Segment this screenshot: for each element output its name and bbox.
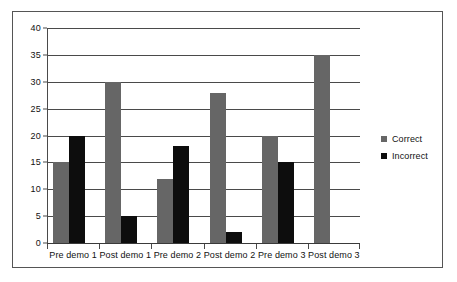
bar-incorrect-1 <box>69 136 85 244</box>
y-tick-label: 15 <box>31 157 41 167</box>
bar-correct-4 <box>210 93 226 244</box>
x-tick-mark <box>359 244 360 249</box>
legend-label: Correct <box>392 134 422 144</box>
x-tick-mark <box>47 244 48 249</box>
bar-group <box>308 28 360 243</box>
legend-label: Incorrect <box>392 151 428 161</box>
bar-group <box>47 28 99 243</box>
x-tick-label: Pre demo 1 <box>49 250 97 260</box>
bar-incorrect-4 <box>226 232 242 243</box>
y-tick-label: 35 <box>31 50 41 60</box>
x-tick-label: Post demo 3 <box>308 250 360 260</box>
x-tick-mark <box>99 244 100 249</box>
legend-item-correct: Correct <box>381 130 441 147</box>
bar-incorrect-2 <box>121 216 137 243</box>
bar-group <box>256 28 308 243</box>
bar-correct-2 <box>105 82 121 243</box>
bar-correct-6 <box>314 55 330 243</box>
bars-layer <box>47 28 360 243</box>
x-axis-ticks <box>47 244 360 249</box>
chart-frame: 0510152025303540 Pre demo 1Post demo 1Pr… <box>12 11 443 268</box>
bar-group <box>151 28 203 243</box>
y-tick-label: 10 <box>31 184 41 194</box>
x-axis-labels: Pre demo 1Post demo 1Pre demo 2Post demo… <box>47 250 360 264</box>
x-tick-mark <box>256 244 257 249</box>
bar-correct-5 <box>262 136 278 244</box>
bar-incorrect-5 <box>278 162 294 243</box>
y-tick-label: 25 <box>31 104 41 114</box>
gray-square-marker-icon <box>381 136 387 142</box>
y-tick-label: 0 <box>36 238 41 248</box>
y-tick-label: 30 <box>31 77 41 87</box>
x-tick-mark <box>308 244 309 249</box>
y-tick-label: 40 <box>31 23 41 33</box>
x-tick-label: Post demo 2 <box>204 250 256 260</box>
y-tick-label: 5 <box>36 211 41 221</box>
bar-group <box>99 28 151 243</box>
plot-area: 0510152025303540 <box>47 28 360 243</box>
chart-legend: CorrectIncorrect <box>381 130 441 164</box>
bar-correct-3 <box>157 179 173 244</box>
bar-incorrect-3 <box>173 146 189 243</box>
legend-item-incorrect: Incorrect <box>381 147 441 164</box>
y-tick-label: 20 <box>31 131 41 141</box>
x-tick-label: Post demo 1 <box>99 250 151 260</box>
x-tick-label: Pre demo 2 <box>154 250 202 260</box>
x-tick-mark <box>204 244 205 249</box>
bar-correct-1 <box>53 162 69 243</box>
bar-group <box>204 28 256 243</box>
x-tick-mark <box>151 244 152 249</box>
x-tick-label: Pre demo 3 <box>258 250 306 260</box>
black-square-marker-icon <box>381 153 387 159</box>
